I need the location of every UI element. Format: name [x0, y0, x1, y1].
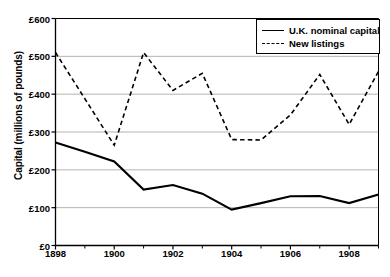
series-line-0 [56, 143, 379, 210]
legend-line-solid-icon [262, 25, 284, 35]
series-line-1 [56, 53, 379, 146]
x-axis-tick-label: 1900 [104, 248, 125, 259]
legend-line-dashed-icon [262, 38, 284, 48]
x-axis-tick-label: 1898 [45, 248, 66, 259]
x-axis-tick-label: 1902 [162, 248, 183, 259]
x-axis-tick-label: 1904 [221, 248, 242, 259]
legend-label-0: U.K. nominal capital [289, 25, 380, 36]
line-chart: Capital (millions of pounds) £0£100£200£… [0, 0, 390, 277]
legend-item-1: New listings [262, 37, 374, 49]
chart-legend: U.K. nominal capital New listings [256, 19, 380, 54]
legend-label-1: New listings [289, 38, 344, 49]
legend-item-0: U.K. nominal capital [262, 24, 374, 36]
x-axis-tick-label: 1906 [280, 248, 301, 259]
x-axis-tick-label: 1908 [339, 248, 360, 259]
